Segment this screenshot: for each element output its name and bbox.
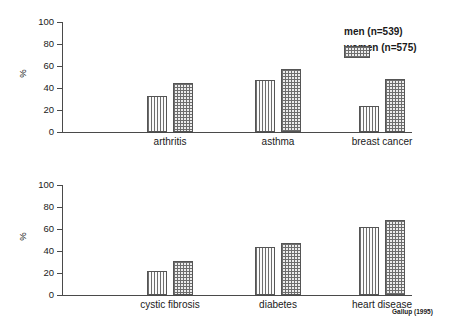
bar-women-cystic-fibrosis — [173, 261, 193, 295]
bar-women-diabetes — [281, 243, 301, 295]
source-note: Gallup (1995) — [392, 308, 433, 315]
y-axis-tick-label: 0 — [49, 127, 54, 137]
y-axis-tick — [57, 88, 62, 89]
y-axis-title-top: % — [17, 69, 28, 77]
bar-women-arthritis — [173, 83, 193, 133]
y-axis-tick-label: 0 — [49, 290, 54, 300]
legend: men (n=539) women (n=575) — [344, 26, 417, 58]
y-axis-title-bottom: % — [17, 232, 28, 240]
x-axis-category-label: cystic fibrosis — [140, 299, 199, 310]
y-axis-line-bottom — [62, 185, 63, 295]
bar-men-asthma — [255, 80, 275, 132]
plot-area-bottom: 020406080100cystic fibrosisdiabetesheart… — [62, 185, 412, 295]
y-axis-tick — [57, 22, 62, 23]
y-axis-tick — [57, 251, 62, 252]
y-axis-tick-label: 100 — [38, 17, 54, 27]
bar-men-cystic-fibrosis — [147, 271, 167, 295]
bar-men-heart-disease — [359, 227, 379, 295]
x-axis-line-top — [62, 132, 412, 133]
bar-men-breast-cancer — [359, 106, 379, 132]
legend-swatch-women-icon — [344, 46, 370, 58]
chart-panel-bottom: % 020406080100cystic fibrosisdiabeteshea… — [0, 163, 469, 326]
y-axis-tick — [57, 66, 62, 67]
y-axis-tick — [57, 295, 62, 296]
y-axis-tick — [57, 229, 62, 230]
legend-label-men: men (n=539) — [344, 26, 403, 37]
y-axis-tick — [57, 132, 62, 133]
bar-women-heart-disease — [385, 220, 405, 295]
legend-item-women: women (n=575) — [344, 42, 417, 53]
y-axis-line-top — [62, 22, 63, 132]
y-axis-tick — [57, 110, 62, 111]
x-axis-line-bottom — [62, 295, 412, 296]
y-axis-tick — [57, 185, 62, 186]
x-axis-category-label: asthma — [262, 136, 295, 147]
y-axis-tick — [57, 273, 62, 274]
y-axis-tick-label: 60 — [43, 224, 54, 234]
y-axis-tick-label: 20 — [43, 105, 54, 115]
bar-men-diabetes — [255, 247, 275, 295]
bar-women-asthma — [281, 69, 301, 132]
y-axis-tick-label: 40 — [43, 83, 54, 93]
x-axis-category-label: arthritis — [154, 136, 187, 147]
bar-women-breast-cancer — [385, 79, 405, 132]
y-axis-tick-label: 40 — [43, 246, 54, 256]
y-axis-tick-label: 60 — [43, 61, 54, 71]
y-axis-tick — [57, 207, 62, 208]
y-axis-tick — [57, 44, 62, 45]
bar-men-arthritis — [147, 96, 167, 132]
legend-item-men: men (n=539) — [344, 26, 417, 37]
y-axis-tick-label: 100 — [38, 180, 54, 190]
x-axis-category-label: diabetes — [259, 299, 297, 310]
y-axis-tick-label: 20 — [43, 268, 54, 278]
x-axis-category-label: breast cancer — [352, 136, 413, 147]
y-axis-tick-label: 80 — [43, 39, 54, 49]
y-axis-tick-label: 80 — [43, 202, 54, 212]
chart-panel-top: % 020406080100arthritisasthmabreast canc… — [0, 0, 469, 163]
chart-figure: % 020406080100arthritisasthmabreast canc… — [0, 0, 469, 326]
